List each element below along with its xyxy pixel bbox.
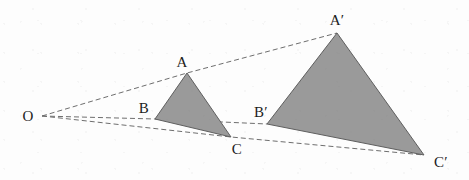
vertex-label-a-prime: A′ <box>330 13 345 28</box>
shaded-triangles <box>155 33 424 155</box>
vertex-label-c-prime: C′ <box>434 155 448 170</box>
vertex-label-b-prime: B′ <box>254 105 268 120</box>
triangle-abc <box>155 73 231 137</box>
vertex-label-a: A <box>176 55 187 70</box>
triangle-a-prime-b-prime-c-prime <box>267 33 424 155</box>
vertex-label-c: C <box>232 142 242 157</box>
vertex-label-o: O <box>22 109 33 124</box>
homothety-figure: O A B C A′ B′ C′ <box>0 0 469 180</box>
vertex-label-b: B <box>139 101 149 116</box>
